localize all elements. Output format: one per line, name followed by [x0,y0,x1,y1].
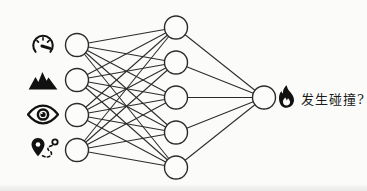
network-node [66,139,89,162]
network-edge [77,28,176,151]
eye-icon [27,104,59,125]
output-question-label: 发生碰撞? [301,87,365,106]
network-node [165,86,188,109]
network-node [253,86,276,109]
network-node [66,104,89,127]
mountains-icon [28,70,58,90]
network-edge [176,28,264,98]
output-row: 发生碰撞? [279,84,365,109]
network-node [165,121,188,144]
flame-icon [279,84,294,109]
speedometer-icon [30,32,56,58]
network-edge [77,28,176,46]
network-node [165,16,188,39]
network-edge [77,28,176,81]
network-node [66,34,89,57]
network-node [165,51,188,74]
network-edge [77,98,176,151]
network-edge [77,150,176,168]
neural-network-figure: 发生碰撞? [0,0,367,191]
network-node [165,156,188,179]
network-node [66,69,89,92]
network-edge [77,28,176,116]
network-edge [176,98,264,168]
network-edge [77,133,176,151]
route-icon [30,136,62,164]
network-edge [77,63,176,151]
page-edge-shadow [0,184,367,191]
network-edge [176,63,264,98]
network-edge [176,98,264,133]
